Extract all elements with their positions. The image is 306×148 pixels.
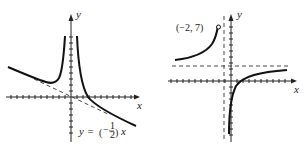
right-graph: y x (−2, 7) bbox=[168, 8, 299, 142]
figure: y x y = ( − 1 2 ) x bbox=[0, 0, 306, 148]
svg-text:): ) bbox=[115, 127, 118, 139]
left-y-axis-label: y bbox=[75, 8, 81, 20]
left-graph: y x y = ( − 1 2 ) x bbox=[6, 8, 142, 142]
right-curve-right-branch bbox=[229, 70, 287, 134]
open-circle-marker bbox=[217, 25, 221, 29]
right-y-axis-label: y bbox=[236, 8, 242, 20]
left-asymptote-label: y = ( − 1 2 ) x bbox=[78, 120, 126, 140]
left-x-axis-label: x bbox=[136, 99, 142, 111]
right-x-axis-label: x bbox=[293, 83, 299, 95]
svg-text:x: x bbox=[120, 125, 126, 137]
svg-text:−: − bbox=[103, 124, 109, 135]
svg-text:y =: y = bbox=[78, 125, 94, 137]
point-label: (−2, 7) bbox=[176, 22, 203, 34]
left-y-arrow-icon bbox=[69, 14, 74, 21]
left-curve-right-branch bbox=[77, 36, 136, 126]
right-y-arrow-icon bbox=[229, 14, 234, 21]
left-curve-left-branch bbox=[8, 36, 65, 83]
